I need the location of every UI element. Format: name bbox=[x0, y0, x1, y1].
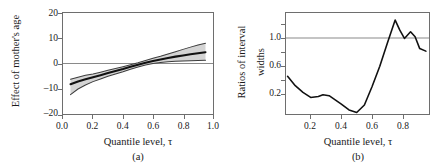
panel-a-xtick-label-0: 0.0 bbox=[47, 122, 77, 132]
panel-a-ytick-label-neg20: –20 bbox=[26, 109, 58, 119]
panel-b: Ratios of interval widths 1.0 0.6 0.2 0.… bbox=[223, 0, 447, 168]
panel-a-xtick-label-2: 0.4 bbox=[108, 122, 138, 132]
panel-b-xtick-mark bbox=[341, 115, 342, 119]
panel-b-ratio-line bbox=[288, 20, 426, 112]
panel-a-ytick-label-20: 20 bbox=[30, 9, 58, 19]
panel-a-xtick-mark bbox=[92, 115, 93, 119]
panel-b-caption: (b) bbox=[328, 152, 388, 163]
panel-a-xtick-label-3: 0.6 bbox=[138, 122, 168, 132]
panel-a-x-axis-title: Quantile level, τ bbox=[58, 136, 218, 148]
panel-a-y-axis-title: Effect of mother's age bbox=[10, 6, 22, 116]
panel-b-ytick-label-1: 1.0 bbox=[253, 33, 281, 43]
panel-a: Effect of mother's age 20 10 0 –10 –20 bbox=[0, 0, 224, 168]
panel-b-xtick-mark bbox=[310, 115, 311, 119]
panel-b-x-axis-title: Quantile level, τ bbox=[278, 136, 438, 148]
panel-b-xtick-label-0: 0.2 bbox=[295, 122, 325, 132]
panel-b-xtick-mark bbox=[403, 115, 404, 119]
panel-a-ytick-label-0: 0 bbox=[30, 59, 58, 69]
panel-b-xtick-label-3: 0.8 bbox=[388, 122, 418, 132]
panel-a-xtick-label-1: 0.2 bbox=[77, 122, 107, 132]
panel-b-ytick-label-02: 0.2 bbox=[253, 89, 281, 99]
panel-a-xtick-label-4: 0.8 bbox=[169, 122, 199, 132]
panel-a-confidence-band bbox=[71, 43, 206, 94]
panel-a-xtick-mark bbox=[213, 115, 214, 119]
panel-a-xtick-mark bbox=[153, 115, 154, 119]
figure-container: Effect of mother's age 20 10 0 –10 –20 bbox=[0, 0, 447, 168]
panel-b-y-axis-title-line1: Ratios of interval bbox=[236, 12, 248, 112]
panel-a-xtick-mark bbox=[184, 115, 185, 119]
panel-a-caption: (a) bbox=[108, 152, 168, 163]
panel-b-xtick-mark bbox=[372, 115, 373, 119]
panel-b-ytick-label-06: 0.6 bbox=[253, 61, 281, 71]
panel-a-ytick-label-neg10: –10 bbox=[26, 84, 58, 94]
panel-a-xtick-mark bbox=[123, 115, 124, 119]
panel-b-plot-area bbox=[285, 12, 430, 115]
panel-b-xtick-label-1: 0.4 bbox=[326, 122, 356, 132]
panel-a-xtick-mark bbox=[62, 115, 63, 119]
panel-a-plot-area bbox=[62, 12, 214, 115]
panel-b-xtick-label-2: 0.6 bbox=[357, 122, 387, 132]
panel-a-plot-svg bbox=[63, 13, 213, 114]
panel-b-plot-svg bbox=[286, 13, 429, 114]
panel-a-ytick-label-10: 10 bbox=[30, 34, 58, 44]
